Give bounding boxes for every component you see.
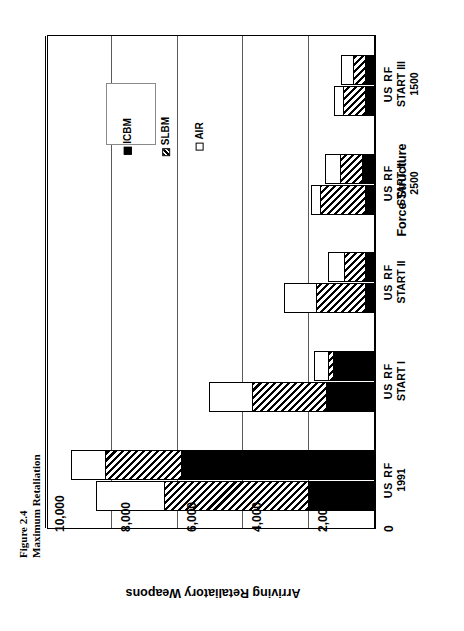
bar-segment-air[interactable]	[71, 450, 106, 480]
category-label-line3: 1500	[408, 37, 421, 131]
bar-rf[interactable]	[285, 283, 375, 313]
bar-segment-slbm[interactable]	[316, 283, 366, 313]
bar-segment-air[interactable]	[314, 351, 329, 381]
bar-segment-icbm[interactable]	[326, 382, 375, 412]
legend-label: SLBM	[160, 117, 171, 145]
bar-segment-icbm[interactable]	[365, 283, 375, 313]
gridline	[45, 36, 46, 528]
value-tick-label: 8,000	[119, 472, 133, 532]
chart-legend: ICBMSLBMAIR	[106, 83, 156, 145]
legend-swatch-icbm	[123, 147, 131, 155]
bar-segment-air[interactable]	[328, 252, 345, 282]
value-tick-label: 10,000	[53, 472, 67, 532]
bar-segment-air[interactable]	[284, 283, 317, 313]
bar-segment-air[interactable]	[325, 154, 341, 184]
bar-us[interactable]	[329, 252, 375, 282]
bar-segment-icbm[interactable]	[181, 450, 375, 480]
value-axis-title: Arriving Retaliatory Weapons	[88, 586, 338, 600]
legend-label: AIR	[194, 122, 205, 139]
category-axis-title: Force Structure	[395, 125, 409, 255]
bar-segment-slbm[interactable]	[105, 450, 182, 480]
legend-label: ICBM	[122, 118, 133, 144]
category-label-line1: US RF	[382, 37, 395, 131]
value-tick-label: 6,000	[185, 472, 199, 532]
category-label: US RF1991	[382, 433, 408, 527]
bar-rf[interactable]	[312, 185, 375, 215]
bar-segment-icbm[interactable]	[365, 86, 375, 116]
bar-segment-slbm[interactable]	[252, 382, 327, 412]
category-label-line3: 2500	[408, 136, 421, 230]
bar-group	[48, 332, 375, 431]
bar-group	[48, 234, 375, 333]
category-label: US RFSTART I	[382, 334, 408, 428]
bar-segment-icbm[interactable]	[365, 185, 375, 215]
legend-item: ICBM	[122, 118, 133, 155]
bar-group	[48, 36, 375, 135]
value-tick-label: 2,000	[316, 472, 330, 532]
figure-title: Maximum Retaliation	[30, 408, 43, 558]
category-label-line1: US RF	[382, 433, 395, 527]
figure-caption: Figure 2.4 Maximum Retaliation	[17, 408, 43, 558]
category-label-line2: START I	[395, 334, 408, 428]
legend-swatch-air	[195, 143, 203, 151]
figure-number: Figure 2.4	[17, 408, 30, 558]
category-label-line2: 1991	[395, 433, 408, 527]
chart-plot-area: ICBMSLBMAIR	[47, 35, 376, 529]
legend-item: SLBM	[160, 117, 171, 156]
category-label-line2: START III	[395, 37, 408, 131]
bar-us[interactable]	[342, 55, 375, 85]
bar-us[interactable]	[326, 154, 375, 184]
bar-us[interactable]	[315, 351, 375, 381]
bar-segment-slbm[interactable]	[343, 86, 366, 116]
bar-rf[interactable]	[335, 86, 375, 116]
category-label: US RFSTART III1500	[382, 37, 421, 131]
bar-segment-icbm[interactable]	[365, 55, 375, 85]
category-label-line1: US RF	[382, 334, 395, 428]
bar-segment-slbm[interactable]	[344, 252, 366, 282]
bar-segment-icbm[interactable]	[365, 252, 375, 282]
category-label-line1: US RF	[382, 136, 395, 230]
bar-segment-slbm[interactable]	[340, 154, 363, 184]
bar-group	[48, 135, 375, 234]
bar-segment-slbm[interactable]	[320, 185, 366, 215]
bar-rf[interactable]	[97, 481, 375, 511]
bar-segment-icbm[interactable]	[333, 351, 375, 381]
category-label-line1: US RF	[382, 235, 395, 329]
bar-segment-icbm[interactable]	[362, 154, 375, 184]
bar-rf[interactable]	[210, 382, 375, 412]
legend-item: AIR	[194, 122, 205, 150]
legend-swatch-slbm	[161, 148, 169, 156]
bar-segment-air[interactable]	[209, 382, 253, 412]
value-tick-label: 4,000	[250, 472, 264, 532]
